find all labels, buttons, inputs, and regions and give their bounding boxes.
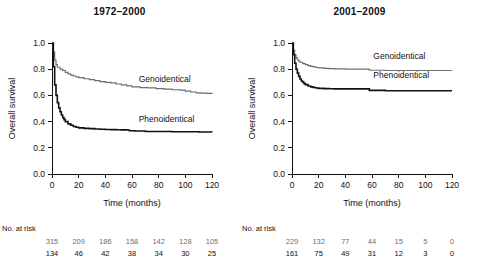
- y-tick-label: 0.4: [273, 117, 285, 127]
- risk-value: 134: [46, 249, 59, 258]
- y-tick-label: 0.6: [273, 90, 285, 100]
- risk-value: 158: [126, 237, 139, 246]
- risk-value: 3: [423, 249, 427, 258]
- risk-value: 209: [72, 237, 85, 246]
- risk-value: 30: [181, 249, 189, 258]
- y-tick-label: 1.0: [33, 38, 45, 48]
- risk-table-heading: No. at risk: [2, 224, 36, 233]
- risk-value: 75: [314, 249, 322, 258]
- y-tick-label: 0.8: [33, 64, 45, 74]
- x-tick-label: 0: [290, 180, 295, 190]
- risk-value: 31: [368, 249, 376, 258]
- risk-value: 77: [341, 237, 349, 246]
- risk-value: 229: [286, 237, 299, 246]
- x-tick-label: 100: [418, 180, 432, 190]
- y-tick-label: 0.8: [273, 64, 285, 74]
- panel-2001-2009: 2001–2009 0.00.20.40.60.81.0020406080100…: [240, 0, 479, 266]
- y-axis-title: Overall survival: [7, 78, 17, 140]
- x-tick-label: 60: [127, 180, 137, 190]
- risk-value: 12: [394, 249, 402, 258]
- risk-value: 105: [206, 237, 219, 246]
- x-tick-label: 80: [394, 180, 404, 190]
- x-tick-label: 40: [101, 180, 111, 190]
- series-label-phenoidentical: Phenoidentical: [373, 70, 429, 80]
- y-tick-label: 0.0: [33, 169, 45, 179]
- x-axis-title: Time (months): [103, 198, 161, 208]
- risk-value: 0: [450, 237, 454, 246]
- x-tick-label: 20: [314, 180, 324, 190]
- risk-value: 34: [154, 249, 162, 258]
- y-tick-label: 0.0: [273, 169, 285, 179]
- series-label-genoidentical: Genoidentical: [373, 51, 425, 61]
- panel-1972-2000: 1972–2000 0.00.20.40.60.81.0020406080100…: [0, 0, 239, 266]
- risk-value: 15: [394, 237, 402, 246]
- x-tick-label: 120: [445, 180, 459, 190]
- risk-value: 186: [99, 237, 112, 246]
- y-tick-label: 0.2: [33, 143, 45, 153]
- x-tick-label: 40: [341, 180, 351, 190]
- risk-value: 38: [128, 249, 136, 258]
- risk-value: 46: [74, 249, 82, 258]
- y-tick-label: 0.6: [33, 90, 45, 100]
- risk-value: 142: [152, 237, 165, 246]
- risk-value: 161: [286, 249, 299, 258]
- y-axis-title: Overall survival: [247, 78, 257, 140]
- survival-curve-genoidentical: [292, 43, 452, 71]
- kaplan-meier-plot: 0.00.20.40.60.81.0020406080100120Time (m…: [240, 0, 479, 266]
- risk-value: 132: [312, 237, 325, 246]
- survival-curves-figure: 1972–2000 0.00.20.40.60.81.0020406080100…: [0, 0, 479, 266]
- survival-curve-genoidentical: [52, 43, 212, 94]
- x-axis-title: Time (months): [343, 198, 401, 208]
- risk-table-heading: No. at risk: [242, 224, 276, 233]
- x-tick-label: 20: [74, 180, 84, 190]
- y-tick-label: 0.4: [33, 117, 45, 127]
- series-label-genoidentical: Genoidentical: [139, 74, 191, 84]
- x-tick-label: 60: [367, 180, 377, 190]
- y-tick-label: 1.0: [273, 38, 285, 48]
- kaplan-meier-plot: 0.00.20.40.60.81.0020406080100120Time (m…: [0, 0, 239, 266]
- x-tick-label: 0: [50, 180, 55, 190]
- y-tick-label: 0.2: [273, 143, 285, 153]
- risk-value: 5: [423, 237, 427, 246]
- risk-value: 315: [46, 237, 59, 246]
- risk-value: 128: [179, 237, 192, 246]
- risk-value: 0: [450, 249, 454, 258]
- x-tick-label: 120: [205, 180, 219, 190]
- risk-value: 25: [208, 249, 216, 258]
- risk-value: 44: [368, 237, 376, 246]
- series-label-phenoidentical: Phenoidentical: [139, 114, 195, 124]
- x-tick-label: 100: [178, 180, 192, 190]
- x-tick-label: 80: [154, 180, 164, 190]
- risk-value: 49: [341, 249, 349, 258]
- risk-value: 42: [101, 249, 109, 258]
